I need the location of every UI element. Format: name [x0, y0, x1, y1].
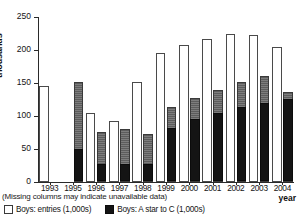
- bar-chart: thousands 250 200 150 100 50 0 199319951…: [0, 0, 300, 214]
- bar-group: [108, 17, 131, 182]
- bar-grades-achieved: [190, 119, 200, 181]
- legend: Boys: entries (1,000s) Boys: A star to C…: [4, 205, 205, 214]
- bar-grades-achieved: [237, 107, 247, 181]
- bar-grades: [237, 82, 247, 182]
- x-tick-label: 2001: [201, 184, 224, 193]
- bar-entries: [86, 113, 96, 182]
- bar-grades: [283, 92, 293, 182]
- bar-entries: [226, 34, 236, 183]
- bar-grades-achieved: [120, 164, 130, 181]
- legend-swatch-grades-icon: [105, 205, 114, 214]
- x-tick-label: 2003: [247, 184, 270, 193]
- bar-grades-achieved: [283, 99, 293, 181]
- bar-grades: [213, 90, 223, 182]
- bar-entries: [202, 39, 212, 182]
- bar-grades-achieved: [74, 149, 84, 181]
- bar-grades: [74, 82, 84, 182]
- y-tick-label: 100: [17, 111, 31, 120]
- bar-grades-achieved: [260, 103, 270, 181]
- y-tick-label: 150: [17, 78, 31, 87]
- bar-grades: [97, 132, 107, 182]
- bar-entries: [272, 47, 282, 182]
- bar-grades-achieved: [213, 113, 223, 181]
- bar-grades-achieved: [97, 164, 107, 181]
- bar-group: [61, 17, 84, 182]
- bar-group: [201, 17, 224, 182]
- bar-grades: [260, 76, 270, 182]
- legend-label-entries: Boys: entries (1,000s): [16, 205, 91, 214]
- bar-group: [38, 17, 61, 182]
- bar-grades: [120, 129, 130, 182]
- bar-entries: [179, 45, 189, 182]
- x-axis-title: year: [279, 193, 297, 203]
- bar-entries: [109, 121, 119, 182]
- bar-grades-achieved: [143, 164, 153, 181]
- y-tick-label: 250: [17, 12, 31, 21]
- bar-grades: [190, 98, 200, 182]
- y-tick-label: 200: [17, 45, 31, 54]
- bar-entries: [156, 53, 166, 182]
- legend-label-grades: Boys: A star to C (1,000s): [117, 205, 205, 214]
- bar-group: [271, 17, 294, 182]
- bar-entries: [132, 82, 142, 182]
- bar-group: [224, 17, 247, 182]
- legend-item-entries[interactable]: Boys: entries (1,000s): [4, 205, 91, 214]
- bar-group: [154, 17, 177, 182]
- footnote: (Missing columns may indicate unavailabl…: [2, 192, 167, 201]
- bar-grades: [143, 134, 153, 182]
- bar-group: [178, 17, 201, 182]
- bar-group: [85, 17, 108, 182]
- bar-entries: [249, 35, 259, 182]
- x-tick-label: 2000: [178, 184, 201, 193]
- bar-group: [247, 17, 270, 182]
- bar-group: [131, 17, 154, 182]
- y-tick-label: 0: [26, 177, 31, 186]
- y-axis-ticks: 250 200 150 100 50 0: [0, 0, 38, 214]
- bar-entries: [39, 86, 49, 182]
- bar-grades: [167, 107, 177, 182]
- x-tick-label: 2004: [271, 184, 294, 193]
- bar-grades-achieved: [167, 128, 177, 181]
- y-tick-label: 50: [22, 144, 31, 153]
- legend-swatch-entries-icon: [4, 205, 13, 214]
- plot-area: [38, 17, 294, 182]
- x-tick-label: 2002: [224, 184, 247, 193]
- legend-item-grades[interactable]: Boys: A star to C (1,000s): [105, 205, 205, 214]
